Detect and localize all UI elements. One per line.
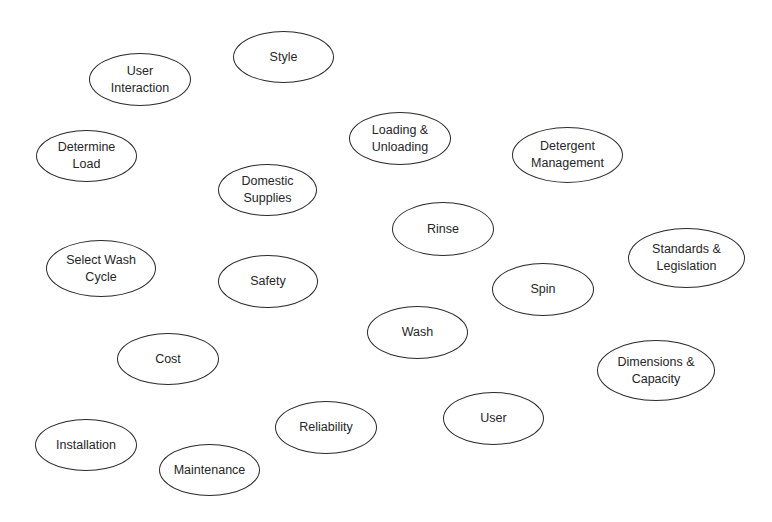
node-label-line: Legislation: [652, 258, 721, 275]
node-label-line: Management: [531, 155, 604, 172]
node-label-line: Supplies: [241, 190, 293, 207]
node-label: DetergentManagement: [531, 138, 604, 172]
node-user-interaction: UserInteraction: [89, 53, 191, 106]
node-label-line: Domestic: [241, 173, 293, 190]
node-label-line: Capacity: [617, 371, 694, 388]
node-label-line: User: [111, 63, 169, 80]
node-dimensions-capacity: Dimensions &Capacity: [597, 340, 715, 401]
node-detergent-management: DetergentManagement: [512, 127, 623, 183]
node-cost: Cost: [117, 333, 219, 385]
node-label: DetermineLoad: [58, 139, 116, 173]
node-label-line: Reliability: [299, 419, 353, 436]
node-label-line: Dimensions &: [617, 354, 694, 371]
node-rinse: Rinse: [392, 202, 494, 256]
node-loading-unloading: Loading &Unloading: [349, 112, 451, 165]
node-label: Loading &Unloading: [372, 122, 428, 156]
node-determine-load: DetermineLoad: [36, 130, 137, 182]
node-wash: Wash: [367, 306, 468, 359]
node-maintenance: Maintenance: [159, 444, 260, 496]
node-label-line: Cost: [155, 351, 181, 368]
node-label-line: Determine: [58, 139, 116, 156]
node-label-line: Installation: [56, 437, 116, 454]
node-installation: Installation: [35, 419, 137, 471]
node-label-line: Safety: [250, 273, 285, 290]
node-select-wash-cycle: Select WashCycle: [46, 240, 156, 297]
node-label: Installation: [56, 437, 116, 454]
node-label-line: Cycle: [66, 269, 136, 286]
node-label: Standards &Legislation: [652, 241, 721, 275]
node-label-line: Detergent: [531, 138, 604, 155]
node-label-line: Rinse: [427, 221, 459, 238]
node-label: Spin: [530, 281, 555, 298]
node-spin: Spin: [492, 263, 594, 316]
node-label-line: Wash: [402, 324, 434, 341]
node-user: User: [443, 392, 544, 445]
node-label: Reliability: [299, 419, 353, 436]
node-safety: Safety: [218, 255, 318, 308]
node-label-line: Interaction: [111, 80, 169, 97]
node-reliability: Reliability: [275, 401, 377, 454]
node-label: Safety: [250, 273, 285, 290]
node-domestic-supplies: DomesticSupplies: [218, 164, 317, 216]
node-label-line: Loading &: [372, 122, 428, 139]
node-label-line: Maintenance: [174, 462, 246, 479]
node-standards-legislation: Standards &Legislation: [628, 228, 745, 288]
node-label: UserInteraction: [111, 63, 169, 97]
node-label-line: User: [480, 410, 506, 427]
node-label: Maintenance: [174, 462, 246, 479]
node-label: Dimensions &Capacity: [617, 354, 694, 388]
node-label-line: Style: [270, 49, 298, 66]
node-label: Select WashCycle: [66, 252, 136, 286]
node-label: Cost: [155, 351, 181, 368]
node-label: User: [480, 410, 506, 427]
node-style: Style: [233, 31, 334, 83]
node-label: DomesticSupplies: [241, 173, 293, 207]
node-label-line: Spin: [530, 281, 555, 298]
node-label: Style: [270, 49, 298, 66]
node-label-line: Unloading: [372, 139, 428, 156]
node-label: Rinse: [427, 221, 459, 238]
diagram-canvas: StyleUserInteractionDetermineLoadLoading…: [0, 0, 772, 522]
node-label: Wash: [402, 324, 434, 341]
node-label-line: Select Wash: [66, 252, 136, 269]
node-label-line: Standards &: [652, 241, 721, 258]
node-label-line: Load: [58, 156, 116, 173]
